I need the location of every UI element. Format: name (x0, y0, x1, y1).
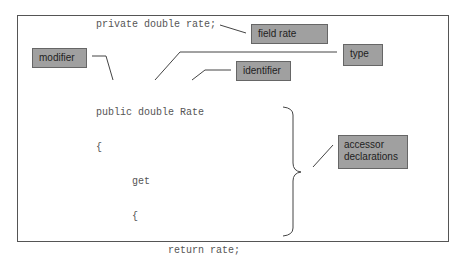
connector-lines (0, 0, 465, 255)
